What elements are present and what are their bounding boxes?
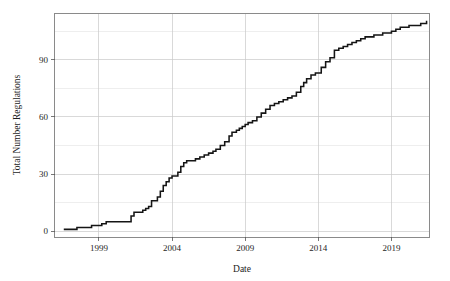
x-tick-label: 2019 — [382, 243, 401, 253]
x-tick-label: 2009 — [236, 243, 255, 253]
x-axis-title: Date — [233, 264, 251, 274]
y-tick-label: 90 — [39, 55, 49, 65]
chart-figure: 0306090 19992004200920142019 Date Total … — [0, 0, 450, 281]
x-tick-label: 1999 — [90, 243, 109, 253]
chart-background — [0, 0, 450, 281]
y-tick-label: 60 — [39, 112, 49, 122]
y-tick-label: 0 — [44, 226, 49, 236]
y-tick-label: 30 — [39, 169, 49, 179]
y-axis-title: Total Number Regulations — [12, 74, 22, 175]
x-tick-label: 2004 — [163, 243, 182, 253]
regulations-line-chart: 0306090 19992004200920142019 Date Total … — [0, 0, 450, 281]
x-tick-label: 2014 — [309, 243, 328, 253]
